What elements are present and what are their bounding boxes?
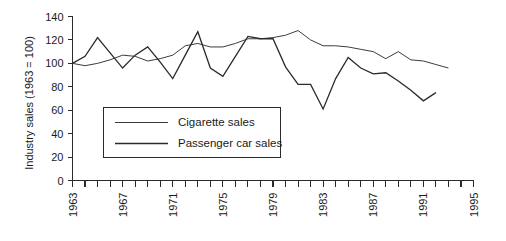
- y-tick-label-40: 40: [51, 128, 63, 140]
- y-tick-label-60: 60: [51, 104, 63, 116]
- legend-label-cigarette: Cigarette sales: [178, 116, 255, 128]
- x-tick-label-1979: 1979: [267, 193, 279, 217]
- x-tick-label-1967: 1967: [117, 193, 129, 217]
- x-tick-label-1983: 1983: [317, 193, 329, 217]
- chart-legend: Cigarette sales Passenger car sales: [104, 108, 283, 158]
- line-chart: Industry sales (1963 = 100) 020406080100…: [0, 0, 506, 241]
- y-tick-label-120: 120: [45, 34, 63, 46]
- x-tick-label-1995: 1995: [468, 193, 480, 217]
- legend-label-passenger-car: Passenger car sales: [178, 137, 282, 149]
- x-tick-label-1975: 1975: [217, 193, 229, 217]
- legend-box: [104, 108, 281, 158]
- x-axis-ticks: [73, 181, 474, 187]
- y-tick-label-140: 140: [45, 11, 63, 23]
- y-tick-label-100: 100: [45, 57, 63, 69]
- x-tick-label-1991: 1991: [417, 193, 429, 217]
- x-tick-label-1971: 1971: [167, 193, 179, 217]
- y-tick-label-80: 80: [51, 81, 63, 93]
- y-tick-label-0: 0: [57, 175, 63, 187]
- y-tick-label-20: 20: [51, 151, 63, 163]
- x-axis-tick-labels: 196319671971197519791983198719911995: [67, 193, 480, 217]
- y-axis-ticks: 020406080100120140: [45, 11, 72, 187]
- series-line-passenger-car-sales: [73, 32, 436, 109]
- y-axis-title: Industry sales (1963 = 100): [23, 36, 35, 170]
- series-lines: [73, 31, 449, 109]
- x-tick-label-1963: 1963: [67, 193, 79, 217]
- chart-canvas: Industry sales (1963 = 100) 020406080100…: [0, 0, 506, 241]
- x-tick-label-1987: 1987: [367, 193, 379, 217]
